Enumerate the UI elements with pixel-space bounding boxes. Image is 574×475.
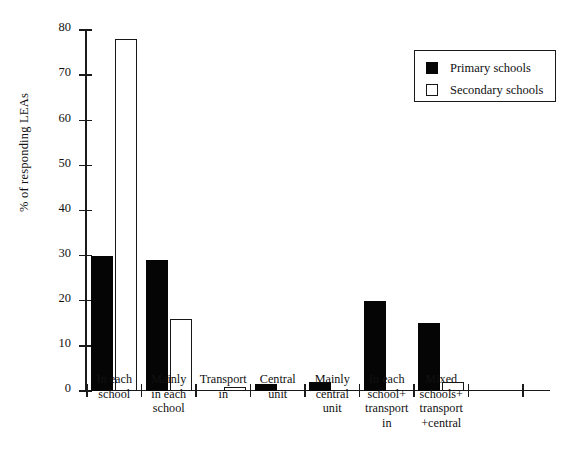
y-tick-label: 80 — [59, 21, 72, 34]
y-tick: 40 — [79, 210, 92, 211]
y-tick: 60 — [79, 120, 92, 121]
y-tick-label: 50 — [59, 157, 72, 170]
y-axis-title: % of responding LEAs — [17, 63, 32, 243]
y-tick-label: 20 — [59, 292, 72, 305]
chart-legend: Primary schools Secondary schools — [414, 50, 556, 102]
y-tick: 20 — [79, 300, 92, 301]
filled-square-icon — [426, 62, 438, 74]
legend-label-secondary: Secondary schools — [450, 83, 543, 98]
x-tick — [522, 384, 523, 397]
y-tick-label: 60 — [59, 112, 72, 125]
legend-label-primary: Primary schools — [450, 61, 531, 76]
open-square-icon — [426, 84, 438, 96]
legend-item-primary-schools: Primary schools — [426, 59, 555, 77]
y-tick: 50 — [79, 165, 92, 166]
y-tick-label: 30 — [59, 247, 72, 260]
y-tick-label: 0 — [65, 382, 71, 395]
y-tick-label: 40 — [59, 202, 72, 215]
bar — [115, 39, 137, 391]
x-category-label: Mixed schools+ transport +central — [408, 372, 475, 430]
y-tick: 80 — [79, 29, 92, 30]
bar — [91, 256, 113, 391]
y-tick: 70 — [79, 74, 92, 75]
y-tick: 30 — [79, 255, 92, 256]
y-tick-label: 10 — [59, 337, 72, 350]
legend-item-secondary-schools: Secondary schools — [426, 81, 555, 99]
y-tick-label: 70 — [59, 66, 72, 79]
bar-chart-figure: % of responding LEAs 01020304050607080 I… — [0, 0, 574, 475]
y-tick: 10 — [79, 345, 92, 346]
